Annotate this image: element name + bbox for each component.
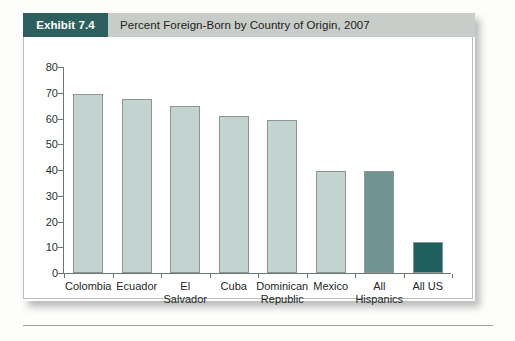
y-axis-tick-label: 20 [46, 216, 58, 228]
x-axis-tick-mark [64, 274, 65, 278]
bar [267, 120, 297, 273]
bar [364, 171, 394, 273]
y-axis-tick-label: 10 [46, 241, 58, 253]
x-axis-tick-mark [161, 274, 162, 278]
x-axis-tick-mark [307, 274, 308, 278]
y-axis-tick-label: 60 [46, 113, 58, 125]
bar [219, 116, 249, 273]
x-axis-tick-mark [404, 274, 405, 278]
y-axis-tick-label: 50 [46, 138, 58, 150]
y-axis-tick-label: 80 [46, 61, 58, 73]
bar [316, 171, 346, 273]
plot-area: 01020304050607080 ColombiaEcuadorEl Salv… [24, 37, 474, 299]
bar [73, 94, 103, 273]
x-axis-tick-label: All US [398, 280, 459, 293]
chart-body: 01020304050607080 ColombiaEcuadorEl Salv… [23, 37, 473, 299]
y-axis-labels: 01020304050607080 [32, 67, 58, 273]
bar [122, 99, 152, 273]
exhibit-title: Percent Foreign-Born by Country of Origi… [108, 13, 475, 37]
x-axis-tick-mark [452, 274, 453, 278]
exhibit-figure: Exhibit 7.4 Percent Foreign-Born by Coun… [0, 0, 515, 341]
exhibit-number-badge: Exhibit 7.4 [23, 13, 108, 37]
x-axis-labels: ColombiaEcuadorEl SalvadorCubaDominican … [64, 280, 452, 320]
x-axis-tick-mark [113, 274, 114, 278]
footer-rule [23, 325, 493, 326]
y-axis-tick-label: 70 [46, 87, 58, 99]
x-axis-tick-mark [210, 274, 211, 278]
bar-series [64, 67, 452, 273]
bar [170, 106, 200, 273]
x-axis-tick-mark [258, 274, 259, 278]
y-axis-tick-label: 40 [46, 164, 58, 176]
x-axis-line [63, 273, 451, 274]
exhibit-header: Exhibit 7.4 Percent Foreign-Born by Coun… [23, 13, 475, 37]
bar [413, 242, 443, 273]
y-axis-tick-label: 30 [46, 190, 58, 202]
exhibit-card: Exhibit 7.4 Percent Foreign-Born by Coun… [23, 13, 475, 301]
x-axis-tick-mark [355, 274, 356, 278]
